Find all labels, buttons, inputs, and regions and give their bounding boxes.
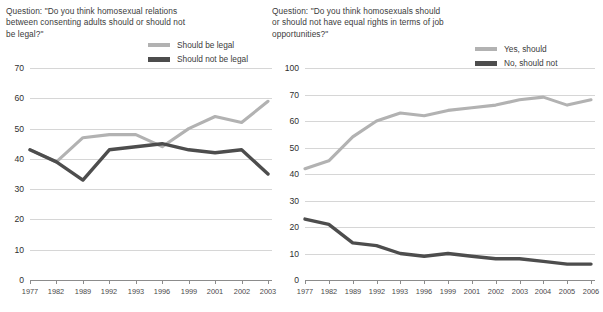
legend-swatch-dark-icon: [148, 57, 170, 62]
plot-area-left: 0102030405060701977198219891992199319961…: [4, 62, 276, 308]
legend-label-should-be-legal: Should be legal: [177, 40, 234, 50]
legend-swatch-light-icon: [475, 47, 497, 51]
series-line-dark: [30, 144, 268, 180]
chart-question-right: Question: "Do you think homosexuals shou…: [272, 6, 450, 40]
two-chart-figure: Question: "Do you think homosexual relat…: [0, 0, 603, 312]
legend-swatch-light-icon: [148, 43, 170, 47]
chart-panel-legal-relations: Question: "Do you think homosexual relat…: [0, 0, 280, 312]
series-line-light: [30, 101, 268, 162]
series-layer: [271, 62, 601, 308]
series-line-dark: [305, 219, 591, 264]
chart-panel-equal-job-rights: Question: "Do you think homosexuals shou…: [265, 0, 603, 312]
legend-label-yes-should: Yes, should: [504, 44, 547, 54]
plot-area-right: 0102030405060701001977198219891992199319…: [271, 62, 601, 308]
legend-item-should-be-legal: Should be legal: [148, 38, 248, 52]
series-layer: [4, 62, 276, 308]
legend-item-yes-should: Yes, should: [475, 42, 558, 56]
series-line-light: [305, 97, 591, 169]
chart-question-left: Question: "Do you think homosexual relat…: [6, 6, 186, 40]
